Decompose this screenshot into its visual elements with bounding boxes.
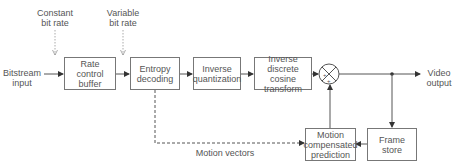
inverse-quantization-block: Inverse quantization bbox=[193, 57, 241, 90]
mpeg-decoder-diagram: + + Bitstream input Constant bit rate Va… bbox=[0, 0, 456, 167]
motion-vectors-label: Motion vectors bbox=[185, 148, 265, 158]
rate-control-buffer-block: Rate control buffer bbox=[64, 57, 116, 90]
svg-text:+: + bbox=[327, 78, 331, 84]
variable-bit-rate-label: Variable bit rate bbox=[98, 8, 148, 28]
bitstream-input-label: Bitstream input bbox=[0, 68, 44, 88]
constant-bit-rate-label: Constant bit rate bbox=[30, 8, 80, 28]
entropy-decoding-block: Entropy decoding bbox=[130, 57, 180, 90]
inverse-dct-block: Inverse discrete cosine transform bbox=[254, 57, 312, 90]
motion-compensated-prediction-block: Motion compensated prediction bbox=[305, 128, 356, 161]
motion-vectors-path bbox=[155, 90, 304, 143]
frame-store-block: Frame store bbox=[367, 128, 417, 161]
video-output-label: Video output bbox=[422, 68, 456, 88]
